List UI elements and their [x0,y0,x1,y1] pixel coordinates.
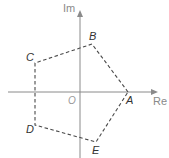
vertex-label-c: C [26,51,34,63]
pentagon-abcde [35,44,128,142]
vertex-label-d: D [26,123,34,135]
argand-diagram: Im Re O A B C D E [0,0,169,158]
vertex-label-b: B [89,30,96,42]
origin-label: O [68,95,76,106]
vertex-label-a: A [125,94,133,106]
vertex-label-e: E [92,144,100,156]
real-axis-label: Re [153,95,167,107]
imaginary-axis-label: Im [63,2,75,14]
imaginary-axis-arrow-icon [77,10,83,17]
